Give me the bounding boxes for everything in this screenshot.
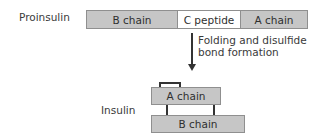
proinsulin-c-peptide: C peptide bbox=[177, 10, 241, 29]
insulin-b-chain: B chain bbox=[151, 115, 245, 133]
step-line-2: bond formation bbox=[198, 46, 307, 58]
step-text: Folding and disulfide bond formation bbox=[198, 34, 307, 58]
insulin-label: Insulin bbox=[101, 104, 135, 116]
proinsulin-b-chain: B chain bbox=[86, 10, 178, 29]
step-line-1: Folding and disulfide bbox=[198, 34, 307, 46]
insulin-a-chain: A chain bbox=[151, 87, 221, 105]
proinsulin-a-chain: A chain bbox=[240, 10, 308, 29]
proinsulin-label: Proinsulin bbox=[19, 11, 70, 23]
